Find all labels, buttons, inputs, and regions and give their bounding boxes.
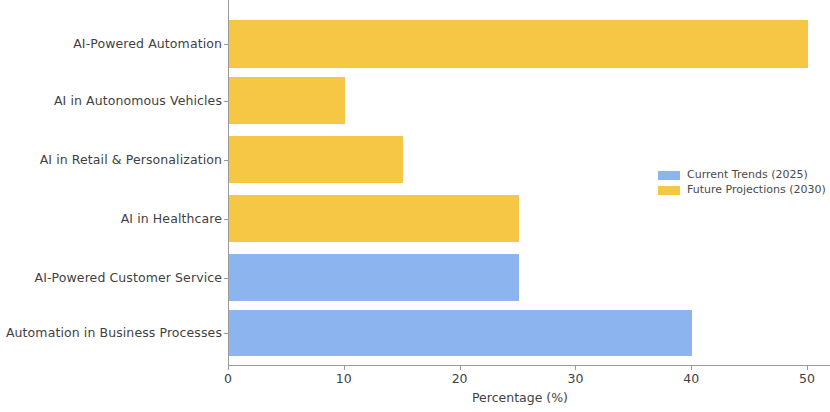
legend-label: Future Projections (2030) — [687, 184, 826, 196]
legend-item[interactable]: Future Projections (2030) — [658, 184, 826, 196]
x-axis-tick-mark — [460, 366, 461, 370]
x-axis-tick-label: 40 — [683, 372, 699, 386]
y-axis-tick-mark — [224, 278, 228, 279]
bar — [229, 77, 345, 124]
chart-legend: Current Trends (2025)Future Projections … — [658, 169, 826, 196]
x-axis-tick-label: 20 — [452, 372, 468, 386]
x-axis-tick-mark — [228, 366, 229, 370]
y-axis-tick-label: AI-Powered Customer Service — [35, 271, 222, 284]
x-axis-tick-mark — [344, 366, 345, 370]
y-axis-tick-mark — [224, 160, 228, 161]
y-axis-tick-label: Automation in Business Processes — [6, 326, 222, 339]
y-axis-tick-mark — [224, 333, 228, 334]
bar — [229, 310, 692, 356]
legend-swatch-icon — [658, 171, 680, 180]
x-axis-tick-mark — [691, 366, 692, 370]
bar-chart: AI-Powered AutomationAI in Autonomous Ve… — [0, 0, 830, 412]
x-axis-tick-label: 50 — [799, 372, 815, 386]
bar — [229, 136, 403, 183]
y-axis-tick-mark — [224, 44, 228, 45]
y-axis-tick-label: AI in Healthcare — [121, 212, 222, 225]
x-axis-title: Percentage (%) — [228, 391, 812, 405]
y-axis-tick-label: AI in Autonomous Vehicles — [54, 94, 222, 107]
legend-label: Current Trends (2025) — [687, 169, 808, 181]
bar — [229, 20, 808, 68]
y-axis-tick-mark — [224, 219, 228, 220]
x-axis-spine — [228, 365, 830, 366]
bar — [229, 195, 519, 242]
y-axis-tick-mark — [224, 101, 228, 102]
x-axis-tick-label: 0 — [224, 372, 232, 386]
x-axis-tick-label: 10 — [336, 372, 352, 386]
y-axis-tick-label: AI-Powered Automation — [73, 37, 222, 50]
legend-item[interactable]: Current Trends (2025) — [658, 169, 826, 181]
y-axis-tick-labels: AI-Powered AutomationAI in Autonomous Ve… — [0, 0, 222, 366]
x-axis-tick-mark — [575, 366, 576, 370]
x-axis-tick-label: 30 — [567, 372, 583, 386]
bar — [229, 254, 519, 301]
legend-swatch-icon — [658, 186, 680, 195]
x-axis-tick-mark — [807, 366, 808, 370]
y-axis-tick-label: AI in Retail & Personalization — [40, 153, 222, 166]
